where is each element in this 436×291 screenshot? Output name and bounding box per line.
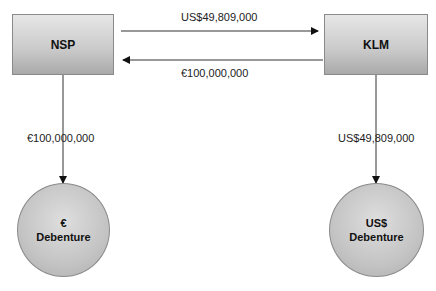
flow-label-nsp-to-klm: US$49,809,000 bbox=[181, 11, 257, 23]
klm-node: KLM bbox=[324, 14, 428, 75]
euro-debenture-node: € Debenture bbox=[17, 183, 110, 277]
flow-label-nsp-to-euro-debenture: €100,000,000 bbox=[27, 132, 94, 144]
nsp-label: NSP bbox=[51, 38, 76, 52]
klm-label: KLM bbox=[363, 38, 389, 52]
nsp-node: NSP bbox=[12, 14, 114, 75]
flow-label-klm-to-nsp: €100,000,000 bbox=[181, 67, 248, 79]
usd-debenture-label: Debenture bbox=[349, 230, 403, 244]
usd-debenture-node: US$ Debenture bbox=[329, 183, 424, 277]
euro-debenture-currency: € bbox=[60, 216, 66, 230]
usd-debenture-currency: US$ bbox=[366, 216, 387, 230]
flow-label-klm-to-usd-debenture: US$49,809,000 bbox=[338, 132, 414, 144]
euro-debenture-label: Debenture bbox=[36, 230, 90, 244]
